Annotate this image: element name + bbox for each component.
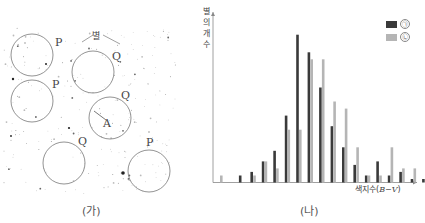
star-dot — [31, 85, 32, 86]
sample-circle-p — [11, 34, 53, 76]
x-axis-label-prefix: 색지수( — [355, 185, 379, 194]
star-dot — [122, 190, 123, 191]
star-dot — [130, 84, 131, 85]
star-dot — [65, 191, 66, 192]
star-dot — [155, 172, 156, 173]
star-dot — [101, 149, 102, 150]
bar-series-2 — [276, 168, 279, 182]
star-dot — [129, 85, 130, 86]
star-dot — [147, 31, 148, 32]
bar-series-1 — [353, 165, 356, 183]
star-dot — [24, 42, 26, 44]
star-dot — [73, 157, 74, 158]
star-dot — [168, 120, 169, 121]
star-dot — [152, 164, 153, 165]
star-dot — [89, 33, 91, 35]
star-dot — [28, 82, 29, 83]
circle-label-q: Q — [121, 89, 130, 102]
star-dot — [47, 131, 48, 132]
star-dot — [160, 37, 161, 38]
star-dot — [160, 180, 161, 181]
star-dot — [21, 169, 22, 170]
bar-series-2 — [220, 176, 223, 183]
bright-star-dot — [12, 78, 14, 80]
star-dot — [75, 43, 76, 44]
star-dot — [36, 190, 37, 191]
star-dot — [35, 116, 37, 118]
star-dot — [65, 41, 66, 42]
bar-series-1 — [296, 35, 299, 183]
sample-circle-q — [43, 142, 85, 184]
star-dot — [96, 49, 97, 50]
star-dot — [125, 152, 126, 153]
star-dot — [11, 66, 12, 67]
panel-b-caption: (나) — [300, 202, 319, 218]
star-dot — [26, 108, 27, 109]
star-dot — [145, 99, 146, 100]
star-dot — [98, 95, 99, 96]
star-dot — [4, 151, 5, 152]
bar-series-2 — [368, 176, 371, 183]
legend-item-series-1: ㉠ — [386, 18, 410, 30]
bar-series-2 — [322, 59, 325, 182]
bar-series-1 — [308, 52, 311, 182]
star-dot — [155, 94, 156, 95]
star-dot — [25, 36, 27, 38]
star-dot — [73, 75, 74, 76]
star-dot — [105, 57, 106, 58]
star-dot — [83, 167, 84, 168]
star-dot — [53, 138, 55, 140]
star-dot — [175, 99, 176, 100]
star-dot — [145, 181, 146, 182]
star-dot — [161, 162, 162, 163]
bar-series-2 — [299, 130, 302, 183]
star-dot — [38, 149, 39, 150]
star-field — [0, 0, 200, 223]
star-label: 별 — [92, 29, 100, 42]
star-dot — [41, 88, 42, 89]
star-dot — [13, 102, 14, 103]
star-dot — [168, 40, 169, 41]
star-dot — [71, 86, 72, 87]
star-dot — [6, 121, 8, 123]
star-dot — [171, 53, 172, 54]
star-dot — [63, 96, 64, 97]
x-axis-label-variable: B−V — [379, 185, 397, 194]
star-dot — [130, 83, 131, 84]
star-dot — [159, 90, 160, 91]
star-dot — [150, 117, 152, 119]
star-dot — [47, 65, 48, 66]
star-dot — [125, 157, 126, 158]
star-dot — [78, 132, 79, 133]
bar-series-1 — [422, 179, 425, 183]
star-dot — [13, 154, 14, 155]
star-dot — [119, 131, 120, 132]
star-dot — [167, 37, 169, 39]
star-dot — [152, 55, 153, 56]
circle-label-p: P — [52, 78, 59, 91]
star-dot — [67, 81, 68, 82]
star-dot — [117, 45, 118, 46]
star-dot — [165, 94, 166, 95]
star-dot — [155, 67, 156, 68]
star-dot — [18, 79, 19, 80]
bar-series-2 — [402, 168, 405, 182]
star-dot — [129, 113, 130, 114]
star-dot — [165, 144, 166, 145]
bar-series-2 — [265, 161, 268, 182]
panel-color-index-histogram: 별의 개수 색지수(B−V) ㉠ ㉡ (나) — [200, 0, 425, 223]
bar-series-1 — [388, 176, 391, 183]
star-dot — [98, 175, 99, 176]
star-dot — [133, 49, 134, 50]
star-dot — [122, 130, 124, 132]
star-dot — [169, 162, 170, 163]
star-dot — [21, 79, 22, 80]
star-dot — [144, 106, 145, 107]
star-dot — [103, 164, 104, 165]
star-dot — [51, 139, 52, 140]
bright-star-dot — [45, 63, 47, 65]
star-dot — [153, 35, 154, 36]
circle-label-p: P — [55, 36, 62, 49]
star-dot — [166, 151, 167, 152]
bar-series-1 — [331, 126, 334, 182]
